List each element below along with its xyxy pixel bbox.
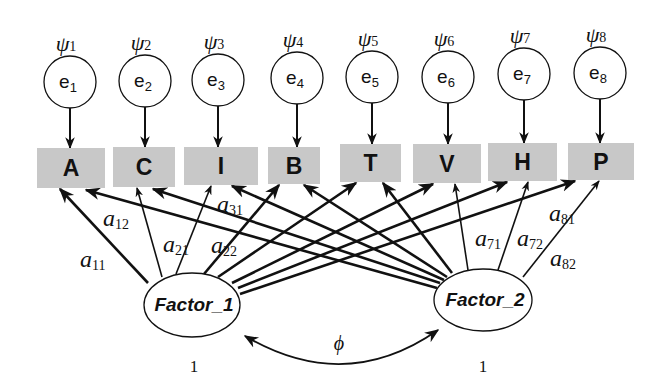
factor-label: Factor_2 (445, 289, 525, 310)
psi-label: ψ7 (510, 23, 531, 48)
indicator-V: V (413, 144, 481, 183)
psi-label: ψ4 (283, 27, 304, 52)
error-term-e6: e6ψ6 (422, 26, 474, 144)
psi-label: ψ3 (204, 29, 225, 54)
indicator-T: T (340, 144, 401, 182)
indicator-label: C (136, 154, 153, 180)
indicator-label: A (63, 155, 80, 181)
indicators: ACIBTVHP (37, 143, 634, 188)
path-factor1-to-C (137, 188, 162, 277)
loading-label-a71: a71 (475, 225, 501, 252)
covariance-label: ϕ (334, 332, 344, 355)
indicator-label: H (514, 149, 531, 175)
loading-label-a81: a81 (549, 200, 575, 227)
indicator-label: B (286, 153, 303, 179)
psi-label: ψ2 (131, 30, 152, 55)
factor-variance-label: 1 (479, 357, 488, 376)
error-term-e5: e5ψ5 (346, 26, 398, 144)
factor-1: Factor_11 (144, 273, 240, 376)
cfa-diagram: e1ψ1e2ψ2e3ψ3e4ψ4e5ψ5e6ψ6e7ψ7e8ψ8 ACIBTVH… (0, 0, 662, 388)
factor-variance-label: 1 (190, 357, 199, 376)
indicator-H: H (488, 143, 557, 181)
indicator-label: V (439, 151, 455, 177)
psi-label: ψ5 (358, 26, 379, 51)
factors: Factor_11Factor_21 (144, 269, 532, 376)
indicator-B: B (268, 147, 320, 184)
factor-2: Factor_21 (434, 269, 532, 376)
loading-label-a82: a82 (550, 245, 576, 272)
indicator-C: C (113, 147, 175, 187)
error-term-e2: e2ψ2 (119, 30, 171, 147)
indicator-label: I (218, 153, 224, 179)
loading-label-a22: a22 (211, 232, 237, 259)
error-term-e8: e8ψ8 (574, 22, 626, 143)
psi-label: ψ8 (586, 22, 607, 47)
error-term-e4: e4ψ4 (271, 27, 323, 147)
psi-label: ψ6 (434, 26, 455, 51)
error-term-e1: e1ψ1 (44, 31, 96, 148)
indicator-A: A (37, 148, 105, 188)
loading-label-a21: a21 (163, 231, 189, 258)
loading-label-a12: a12 (103, 205, 129, 232)
factor-label: Factor_1 (154, 294, 233, 315)
error-term-e3: e3ψ3 (192, 29, 244, 147)
loading-label-a31: a31 (217, 191, 243, 218)
indicator-I: I (184, 147, 258, 185)
error-term-e7: e7ψ7 (498, 23, 550, 143)
error-terms: e1ψ1e2ψ2e3ψ3e4ψ4e5ψ5e6ψ6e7ψ7e8ψ8 (44, 22, 626, 148)
loading-label-a72: a72 (517, 225, 543, 252)
loading-label-a11: a11 (80, 246, 105, 273)
indicator-P: P (568, 143, 634, 180)
indicator-label: T (363, 150, 377, 176)
psi-label: ψ1 (56, 31, 77, 56)
indicator-label: P (593, 149, 608, 175)
